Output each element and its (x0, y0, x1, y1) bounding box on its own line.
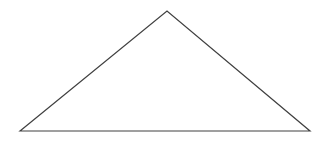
triangle-diagram (0, 0, 320, 145)
triangle-shape (20, 11, 310, 131)
figure-canvas (0, 0, 320, 145)
